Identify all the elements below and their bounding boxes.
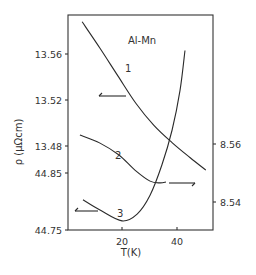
- y-axis-title: ρ (μΩcm): [13, 119, 24, 166]
- x-axis-title: T(K): [120, 247, 142, 258]
- y-tick-label: 13.48: [35, 141, 62, 152]
- curve-label-2: 2: [115, 150, 121, 161]
- x-tick-label: 20: [116, 236, 128, 247]
- axis-arrows: [75, 93, 195, 211]
- chart-title: Al-Mn: [128, 35, 156, 46]
- curve-2: [80, 135, 166, 183]
- curve-label-3: 3: [117, 208, 123, 219]
- plot-frame: [68, 15, 213, 230]
- y-tick-label: 13.52: [35, 95, 62, 106]
- axis-ticks: 204013.5613.5213.4844.8544.758.568.54: [35, 49, 241, 248]
- curve-label-1: 1: [125, 63, 131, 74]
- y-tick-label: 13.56: [35, 49, 62, 60]
- resistivity-chart: 204013.5613.5213.4844.8544.758.568.54 Al…: [0, 0, 256, 275]
- data-curves: [80, 22, 206, 221]
- right-y-tick-label: 8.54: [220, 197, 241, 208]
- curve-3: [83, 50, 185, 221]
- y-tick-label: 44.85: [35, 168, 62, 179]
- right-y-tick-label: 8.56: [220, 139, 241, 150]
- x-tick-label: 40: [171, 236, 183, 247]
- y-tick-label: 44.75: [35, 225, 62, 236]
